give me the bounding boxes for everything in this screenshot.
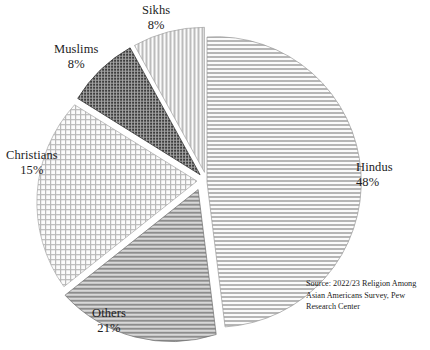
pie-label-others: Others 21%	[92, 306, 126, 337]
pie-chart-figure: Sikhs 8% Muslims 8% Christians 15% Other…	[0, 0, 430, 350]
pie-label-hindus: Hindus 48%	[356, 160, 393, 191]
pie-label-christians-value: 15%	[6, 163, 58, 178]
pie-label-sikhs-value: 8%	[142, 18, 170, 33]
pie-label-sikhs: Sikhs 8%	[142, 3, 170, 34]
pie-label-sikhs-name: Sikhs	[142, 3, 170, 18]
source-note: Source: 2022/23 Religion Among Asian Ame…	[306, 278, 426, 313]
pie-label-muslims-name: Muslims	[54, 42, 98, 57]
pie-label-hindus-name: Hindus	[356, 160, 393, 175]
pie-label-christians: Christians 15%	[6, 148, 58, 179]
pie-label-others-value: 21%	[92, 321, 126, 336]
pie-label-muslims: Muslims 8%	[54, 42, 98, 73]
pie-label-hindus-value: 48%	[356, 175, 393, 190]
pie-label-christians-name: Christians	[6, 148, 58, 163]
pie-label-others-name: Others	[92, 306, 126, 321]
pie-label-muslims-value: 8%	[54, 57, 98, 72]
